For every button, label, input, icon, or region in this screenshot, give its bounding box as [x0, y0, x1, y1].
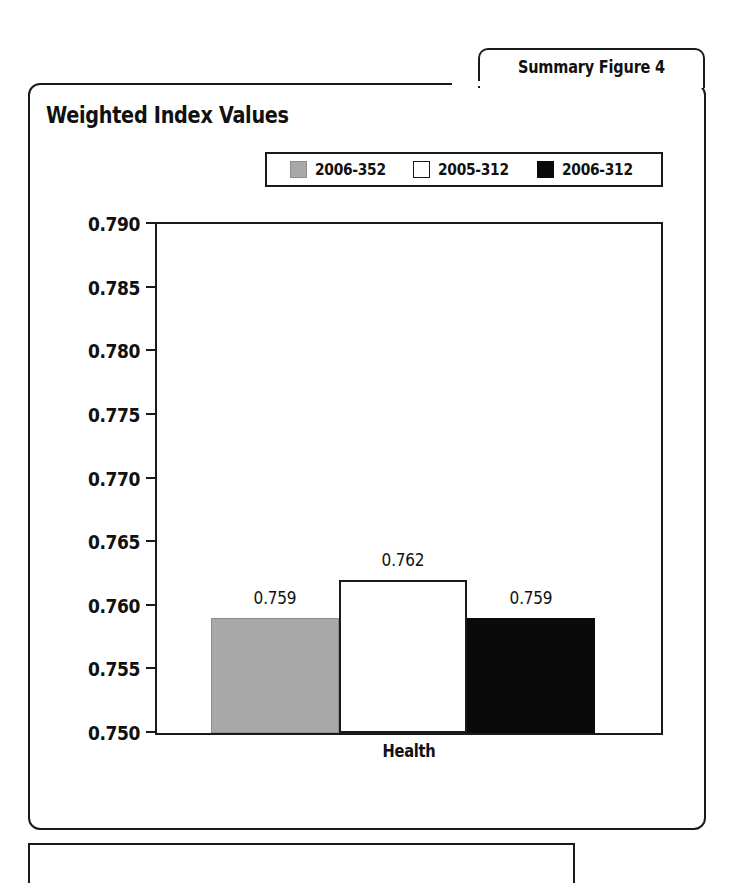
y-axis-tick-label: 0.770 [88, 468, 140, 490]
bar-2005-312 [339, 580, 467, 733]
y-axis-tick-label: 0.785 [88, 277, 140, 299]
bar-2006-352 [211, 618, 339, 733]
y-axis-tick-label: 0.750 [88, 722, 140, 744]
bar-2006-312 [467, 618, 595, 733]
y-axis-tick-label: 0.755 [88, 658, 140, 680]
y-axis-tick-mark [146, 477, 157, 479]
legend-label: 2005-312 [438, 160, 509, 179]
tab-card-joint [452, 81, 675, 86]
y-axis-tick-label: 0.765 [88, 531, 140, 553]
y-axis-tick-label: 0.790 [88, 213, 140, 235]
y-axis-tick-mark [146, 731, 157, 733]
legend-item: 2005-312 [413, 160, 514, 179]
y-axis-tick-mark [146, 222, 157, 224]
next-figure-panel [28, 843, 575, 883]
bar-value-label: 0.759 [510, 588, 553, 608]
y-axis-tick-label: 0.775 [88, 404, 140, 426]
gray-swatch-icon [290, 161, 307, 178]
y-axis-tick-mark [146, 413, 157, 415]
legend-item: 2006-352 [290, 160, 391, 179]
y-axis-tick-mark [146, 286, 157, 288]
y-axis-tick-mark [146, 349, 157, 351]
y-axis-tick-label: 0.760 [88, 595, 140, 617]
plot-inner: 0.7500.7550.7600.7650.7700.7750.7800.785… [157, 224, 661, 733]
plot-area: 0.7500.7550.7600.7650.7700.7750.7800.785… [155, 222, 663, 735]
chart-title: Weighted Index Values [46, 102, 289, 128]
y-axis-tick-label: 0.780 [88, 340, 140, 362]
black-swatch-icon [537, 161, 554, 178]
y-axis-tick-mark [146, 540, 157, 542]
y-axis-tick-mark [146, 667, 157, 669]
chart-legend: 2006-3522005-3122006-312 [265, 152, 663, 187]
legend-item: 2006-312 [537, 160, 638, 179]
xaxis-category-label: Health [173, 741, 645, 761]
white-swatch-icon [413, 161, 430, 178]
figure-tab-label: Summary Figure 4 [489, 50, 694, 84]
y-axis-tick-mark [146, 604, 157, 606]
bar-value-label: 0.759 [254, 588, 297, 608]
legend-label: 2006-352 [315, 160, 386, 179]
legend-label: 2006-312 [562, 160, 633, 179]
bar-value-label: 0.762 [382, 550, 425, 570]
